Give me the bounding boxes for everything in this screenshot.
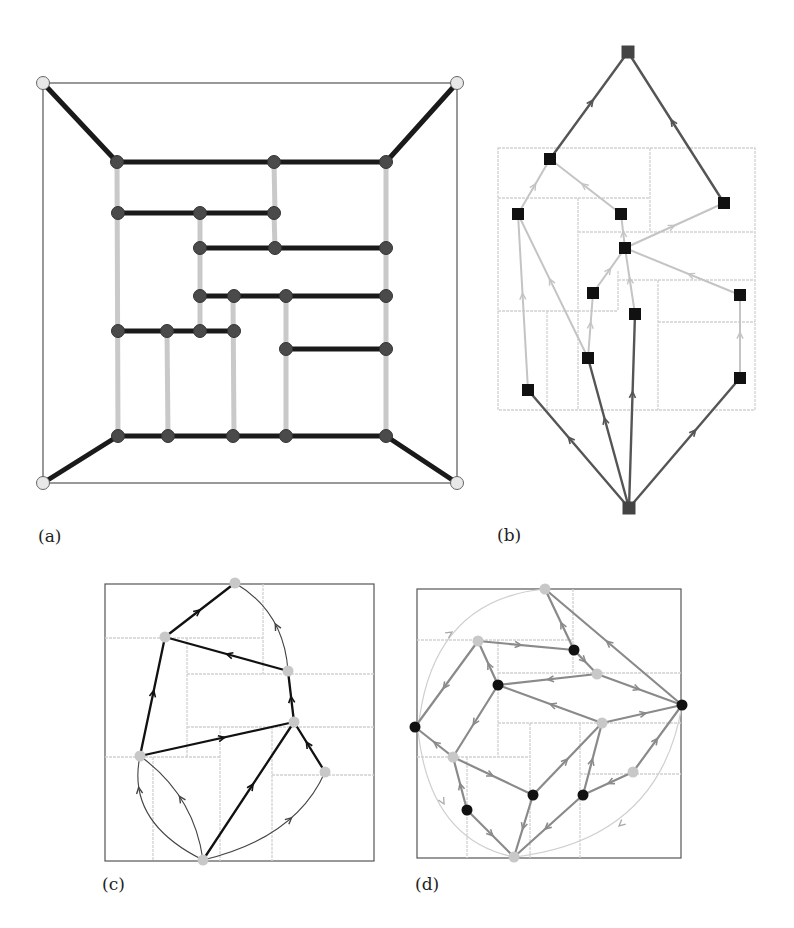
corner-node — [37, 477, 50, 490]
curved-edge — [140, 756, 203, 860]
grey-edge — [478, 641, 574, 650]
light-node — [230, 578, 241, 589]
vertex-node — [380, 343, 393, 356]
light-edge — [550, 159, 621, 214]
light-node — [160, 632, 171, 643]
panel-d-label: (d) — [415, 874, 439, 894]
black-edge — [140, 637, 165, 756]
vertical-segment — [233, 296, 234, 436]
corner-edge — [43, 83, 117, 162]
curved-edge — [138, 756, 203, 860]
light-node — [289, 717, 300, 728]
vertex-node — [194, 242, 207, 255]
vertical-segment — [274, 162, 275, 213]
light-node — [540, 584, 551, 595]
panel-d — [410, 584, 688, 863]
corner-edge — [386, 436, 457, 483]
black-node — [677, 700, 688, 711]
dissection-frame — [498, 148, 755, 410]
vertex-node — [280, 430, 293, 443]
vertex-node — [162, 430, 175, 443]
dark-edge — [550, 52, 628, 159]
vertex-node — [112, 325, 125, 338]
corner-node — [451, 77, 464, 90]
outer-frame — [105, 584, 374, 861]
light-node — [592, 669, 603, 680]
light-edge — [625, 248, 635, 314]
light-node — [135, 751, 146, 762]
sink-node — [622, 46, 635, 59]
grey-edge — [453, 685, 498, 757]
vertical-segment — [167, 331, 168, 436]
vertex-node — [228, 325, 241, 338]
vertex-node — [112, 207, 125, 220]
square-node — [512, 208, 524, 220]
black-node — [410, 722, 421, 733]
light-edge — [625, 248, 740, 295]
outer-arc — [418, 731, 514, 857]
light-edge — [518, 159, 550, 214]
square-node — [734, 289, 746, 301]
dark-edge — [628, 52, 724, 203]
vertex-node — [269, 242, 282, 255]
light-node — [473, 636, 484, 647]
square-node — [544, 153, 556, 165]
light-node — [597, 718, 608, 729]
curved-edge-arrowhead — [179, 796, 185, 803]
corner-edge — [386, 83, 457, 162]
square-node — [615, 208, 627, 220]
light-node — [283, 666, 294, 677]
vertical-segment — [117, 162, 118, 436]
light-edge — [518, 214, 528, 390]
vertex-node — [268, 207, 281, 220]
corner-edge — [43, 436, 118, 483]
figure: (a) (b) (c) (d) — [0, 0, 794, 928]
panel-c — [105, 578, 374, 866]
curved-edge — [203, 772, 325, 860]
vertex-node — [380, 430, 393, 443]
dark-edge — [629, 378, 740, 508]
panel-a — [37, 77, 464, 490]
square-node — [718, 197, 730, 209]
panel-b-label: (b) — [497, 525, 521, 545]
black-edge — [294, 722, 325, 772]
vertex-node — [280, 343, 293, 356]
black-node — [578, 790, 589, 801]
vertex-node — [111, 156, 124, 169]
vertex-node — [380, 156, 393, 169]
outer-arc-arrowhead — [445, 632, 452, 638]
black-node — [528, 790, 539, 801]
corner-node — [451, 477, 464, 490]
panel-c-label: (c) — [102, 874, 125, 894]
black-node — [569, 645, 580, 656]
panel-a-label: (a) — [38, 526, 61, 546]
corner-node — [37, 77, 50, 90]
vertex-node — [280, 290, 293, 303]
black-node — [462, 805, 473, 816]
light-node — [628, 767, 639, 778]
vertex-node — [194, 207, 207, 220]
square-node — [582, 352, 594, 364]
vertex-node — [380, 290, 393, 303]
square-node — [587, 287, 599, 299]
vertex-node — [161, 325, 174, 338]
vertex-node — [380, 242, 393, 255]
black-edge — [203, 722, 294, 860]
dark-edge — [629, 314, 635, 508]
light-node — [448, 752, 459, 763]
vertex-node — [194, 290, 207, 303]
panel-b — [498, 46, 755, 515]
grey-edge — [415, 641, 478, 727]
vertex-node — [228, 290, 241, 303]
grey-edge — [545, 589, 574, 650]
square-node — [619, 242, 631, 254]
vertex-node — [112, 430, 125, 443]
vertex-node — [268, 156, 281, 169]
vertex-node — [194, 325, 207, 338]
square-node — [522, 384, 534, 396]
square-node — [734, 372, 746, 384]
light-node — [198, 855, 209, 866]
source-node — [623, 502, 636, 515]
light-edge — [593, 248, 625, 293]
square-node — [629, 308, 641, 320]
